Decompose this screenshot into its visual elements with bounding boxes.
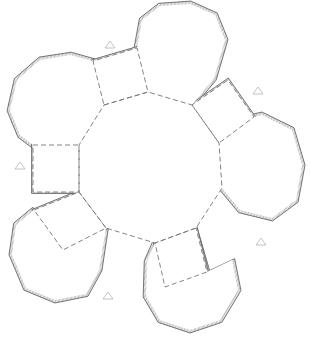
glue-triangle-icon xyxy=(253,87,263,94)
glue-triangle-icon xyxy=(105,41,115,48)
faces xyxy=(10,4,302,330)
glue-triangle-icon xyxy=(256,238,266,245)
papercraft-net-diagram xyxy=(0,0,321,337)
square-face-4 xyxy=(33,145,79,192)
glue-triangle-icon xyxy=(15,162,25,169)
glue-triangle-icon xyxy=(103,292,113,299)
